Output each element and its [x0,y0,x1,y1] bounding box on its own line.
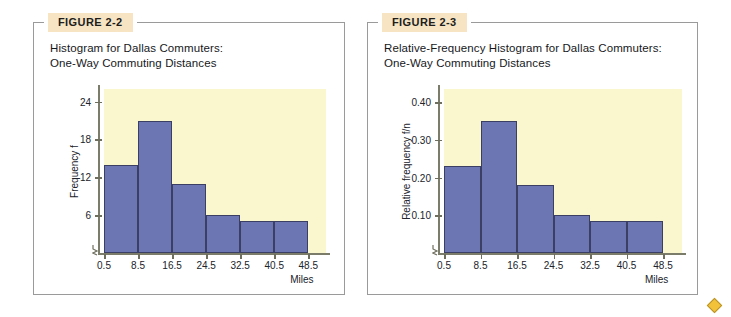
x-axis-label: 48.5 [299,260,318,271]
histogram-bar [104,165,138,253]
y-axis-label: 18 [77,134,91,145]
x-axis-label: 16.5 [507,260,526,271]
histogram-bar [240,221,274,253]
diamond-marker-icon [707,298,723,314]
y-axis-tick [435,215,442,217]
histogram-frequency-chart: 61218240.58.516.524.532.540.548.5MilesFr… [34,23,344,294]
y-axis-label: 0.40 [409,97,431,108]
x-axis-tick [517,254,519,259]
histogram-relative-frequency-chart: 0.100.200.300.400.58.516.524.532.540.548… [368,23,697,294]
x-axis-label: 40.5 [265,260,284,271]
histogram-bar [481,121,518,253]
axis-break-icon [432,242,444,254]
x-axis-label: 24.5 [196,260,215,271]
x-axis-title: Miles [290,274,313,285]
histogram-bar [138,121,172,253]
histogram-bar [590,221,627,253]
y-axis-label: 24 [77,96,91,107]
x-axis-line [98,253,330,255]
y-axis-label: 0.30 [409,134,431,145]
axis-break-icon [92,242,104,254]
y-axis-title: Relative frequency f/n [401,123,412,220]
x-axis-tick [627,254,629,259]
figure-panel-2-3: FIGURE 2-3 Relative-Frequency Histogram … [367,22,698,295]
x-axis-tick [138,254,140,259]
x-axis-line [438,253,686,255]
figure-page: FIGURE 2-2 Histogram for Dallas Commuter… [0,0,731,317]
y-axis-tick [435,102,442,104]
y-axis-line [98,85,100,255]
x-axis-tick [104,254,106,259]
x-axis-tick [554,254,556,259]
x-axis-tick [206,254,208,259]
x-axis-label: 40.5 [617,260,636,271]
histogram-bar [274,221,308,253]
x-axis-label: 8.5 [474,260,488,271]
x-axis-tick [590,254,592,259]
x-axis-label: 8.5 [131,260,145,271]
histogram-bar [517,185,554,253]
histogram-bar [554,215,591,253]
x-axis-title: Miles [645,274,668,285]
histogram-bar [444,166,481,253]
x-axis-tick [663,254,665,259]
y-axis-label: 0.20 [409,172,431,183]
histogram-bar [206,215,240,253]
x-axis-tick [444,254,446,259]
histogram-bar [172,184,206,253]
y-axis-title: Frequency f [69,145,80,198]
x-axis-label: 0.5 [437,260,451,271]
x-axis-label: 16.5 [162,260,181,271]
x-axis-tick [481,254,483,259]
x-axis-label: 0.5 [97,260,111,271]
y-axis-tick [95,102,102,104]
x-axis-tick [274,254,276,259]
y-axis-tick [95,139,102,141]
y-axis-line [438,85,440,255]
y-axis-label: 0.10 [409,210,431,221]
y-axis-tick [95,215,102,217]
x-axis-tick [172,254,174,259]
x-axis-label: 24.5 [544,260,563,271]
x-axis-label: 48.5 [653,260,672,271]
x-axis-tick [240,254,242,259]
x-axis-label: 32.5 [580,260,599,271]
y-axis-tick [435,140,442,142]
y-axis-label: 6 [77,210,91,221]
x-axis-label: 32.5 [230,260,249,271]
figure-panel-2-2: FIGURE 2-2 Histogram for Dallas Commuter… [33,22,345,295]
y-axis-tick [435,178,442,180]
histogram-bar [627,221,664,253]
y-axis-tick [95,177,102,179]
x-axis-tick [308,254,310,259]
